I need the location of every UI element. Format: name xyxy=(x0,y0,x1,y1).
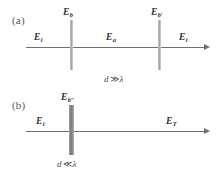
panel-b-tag: (b) xyxy=(12,99,25,111)
panel-b-label-incident-subscript: i xyxy=(43,120,45,127)
panel-b-condition-operator: ≪ xyxy=(62,159,73,169)
panel-b-axis-line xyxy=(26,131,206,132)
panel-a-label-slab-right: Eb′ xyxy=(151,8,162,18)
panel-b-label-transmitted-subscript: T xyxy=(173,120,177,127)
panel-b-label-slab-subscript: b″ xyxy=(68,96,75,103)
panel-a-slab-left xyxy=(70,20,73,70)
physics-figure: (a) Eb Eb′ Ei Ea Et d≫λ (b) Eb″ Ei xyxy=(0,0,217,178)
panel-a-label-incident-subscript: i xyxy=(41,36,43,43)
panel-a-label-slab-left-symbol: E xyxy=(63,7,69,17)
panel-a-arrowhead-icon xyxy=(204,44,210,50)
panel-a-label-transmitted-symbol: E xyxy=(179,32,185,42)
panel-a-label-middle: Ea xyxy=(106,33,116,43)
panel-a-label-slab-left-subscript: b xyxy=(70,11,73,18)
panel-b-label-incident: Ei xyxy=(36,117,44,127)
panel-a-label-incident-symbol: E xyxy=(34,32,40,42)
panel-a-label-middle-symbol: E xyxy=(106,32,112,42)
panel-b-condition: d≪λ xyxy=(57,160,76,169)
panel-a-condition-operator: ≫ xyxy=(109,74,120,84)
panel-b-label-slab: Eb″ xyxy=(61,93,74,103)
panel-a-axis-line xyxy=(26,47,206,48)
panel-a-label-middle-subscript: a xyxy=(113,36,116,43)
panel-a-label-incident: Ei xyxy=(34,33,42,43)
panel-a-condition: d≫λ xyxy=(104,75,123,84)
panel-a-tag: (a) xyxy=(12,14,25,26)
panel-a-label-transmitted-subscript: t xyxy=(186,36,188,43)
panel-a-condition-lambda: λ xyxy=(120,74,124,84)
panel-b-slab xyxy=(69,105,74,155)
panel-b-condition-lambda: λ xyxy=(73,159,77,169)
panel-a-label-transmitted: Et xyxy=(179,33,187,43)
panel-a-label-slab-right-subscript: b′ xyxy=(158,11,163,18)
panel-a-condition-variable: d xyxy=(104,74,109,84)
panel-a-label-slab-left: Eb xyxy=(63,8,73,18)
panel-b-arrowhead-icon xyxy=(204,128,210,134)
panel-b-label-transmitted-symbol: E xyxy=(166,116,172,126)
panel-b-label-slab-symbol: E xyxy=(61,92,67,102)
panel-a-slab-right xyxy=(158,20,161,70)
panel-b-label-transmitted: ET xyxy=(166,117,176,127)
panel-b-label-incident-symbol: E xyxy=(36,116,42,126)
panel-b-condition-variable: d xyxy=(57,159,62,169)
panel-a-label-slab-right-symbol: E xyxy=(151,7,157,17)
